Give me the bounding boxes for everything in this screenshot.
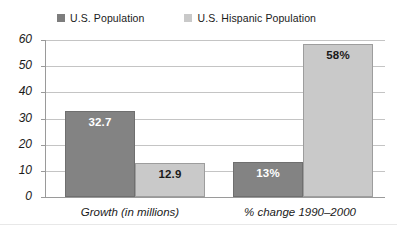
tick-30 [41, 119, 46, 120]
legend-label-us-hispanic-population: U.S. Hispanic Population [197, 12, 316, 24]
y-tick-label-40: 40 [0, 84, 32, 98]
bar-value-label: 32.7 [66, 116, 134, 128]
bar-chart: U.S. Population U.S. Hispanic Population… [0, 0, 397, 235]
y-tick-label-30: 30 [0, 111, 32, 125]
legend-entry-us-population: U.S. Population [57, 12, 144, 24]
y-tick-label-10: 10 [0, 163, 32, 177]
x-axis-line [45, 197, 385, 198]
legend-swatch-icon-us-population [57, 14, 65, 22]
tick-20 [41, 145, 46, 146]
plot-area: 60 50 40 30 20 10 0 32.7 12.9 13% 58% [45, 40, 385, 198]
x-category-label-growth: Growth (in millions) [45, 206, 215, 218]
tick-50 [41, 66, 46, 67]
legend-entry-us-hispanic-population: U.S. Hispanic Population [184, 12, 316, 24]
legend-swatch-icon-us-hispanic-population [184, 14, 192, 22]
bar-value-label: 58% [304, 49, 372, 61]
gridline-60 [45, 40, 385, 41]
y-tick-label-50: 50 [0, 58, 32, 72]
bar-value-label: 12.9 [136, 168, 204, 180]
legend-label-us-population: U.S. Population [70, 12, 144, 24]
y-tick-label-0: 0 [0, 189, 32, 203]
tick-0 [41, 197, 46, 198]
bar-us-population-pct-change[interactable]: 13% [233, 162, 303, 197]
bottom-divider [0, 224, 397, 225]
bar-us-hispanic-population-pct-change[interactable]: 58% [303, 44, 373, 197]
x-category-label-pct-change: % change 1990–2000 [215, 206, 385, 218]
bar-us-hispanic-population-growth[interactable]: 12.9 [135, 163, 205, 197]
y-tick-label-60: 60 [0, 32, 32, 46]
bar-us-population-growth[interactable]: 32.7 [65, 111, 135, 197]
tick-60 [41, 40, 46, 41]
chart-legend: U.S. Population U.S. Hispanic Population [0, 10, 397, 26]
tick-10 [41, 171, 46, 172]
tick-40 [41, 92, 46, 93]
y-tick-label-20: 20 [0, 137, 32, 151]
bar-value-label: 13% [234, 167, 302, 179]
